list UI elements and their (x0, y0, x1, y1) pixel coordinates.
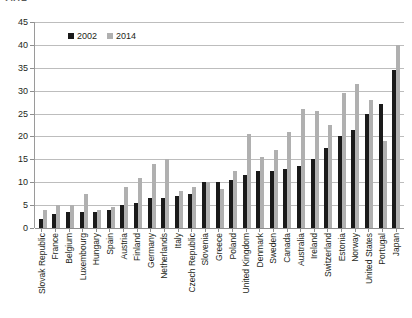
x-tick (335, 228, 349, 232)
x-tick (376, 228, 390, 232)
plot-area (34, 22, 404, 228)
bar-2014 (369, 100, 373, 228)
bar-2014 (124, 187, 128, 228)
x-tick-label: United Kingdom (242, 233, 251, 293)
x-tick-label: Hungary (92, 233, 101, 265)
x-tick-label-cell: Estonia (335, 233, 349, 318)
x-tick-label-cell: Greece (212, 233, 226, 318)
x-tick (212, 228, 226, 232)
x-tick (348, 228, 362, 232)
y-tick-label-30: 30 (4, 87, 28, 96)
x-tick-label-cell: Netherlands (158, 233, 172, 318)
y-tick-label-40: 40 (4, 41, 28, 50)
bar-group (254, 22, 268, 228)
cut-off-heading-fragment: 2014 (5, 0, 27, 1)
bar-2014 (152, 164, 156, 228)
y-tick-label-5: 5 (4, 201, 28, 210)
y-tick-label-20: 20 (4, 132, 28, 141)
x-tick (130, 228, 144, 232)
bar-2014 (192, 187, 196, 228)
x-tick (103, 228, 117, 232)
x-tick-label-cell: Slovak Republic (35, 233, 49, 318)
x-tick-label: France (51, 233, 60, 259)
x-tick-label: Austria (119, 233, 128, 259)
x-tick-label-cell: Poland (226, 233, 240, 318)
bar-group (36, 22, 50, 228)
bar-group (158, 22, 172, 228)
x-tick (239, 228, 253, 232)
x-tick (294, 228, 308, 232)
bar-group (90, 22, 104, 228)
x-tick-label-cell: Norway (348, 233, 362, 318)
x-tick-label: Ireland (310, 233, 319, 259)
x-tick-label: Germany (147, 233, 156, 268)
bar-group (77, 22, 91, 228)
x-tick-label-cell: Japan (389, 233, 403, 318)
x-tick (76, 228, 90, 232)
x-tick-label: Portugal (378, 233, 387, 265)
bar-group (335, 22, 349, 228)
bar-2014 (247, 134, 251, 228)
x-tick-label: Slovak Republic (38, 233, 47, 294)
x-tick (185, 228, 199, 232)
x-tick (267, 228, 281, 232)
bar-2014 (274, 150, 278, 228)
x-tick-label: Netherlands (160, 233, 169, 279)
x-tick-label-cell: France (49, 233, 63, 318)
bar-group (186, 22, 200, 228)
y-tick-label-0: 0 (4, 224, 28, 233)
x-tick-label: Greece (215, 233, 224, 261)
bar-group (267, 22, 281, 228)
x-tick (90, 228, 104, 232)
x-tick-label: Denmark (256, 233, 265, 267)
x-tick-label: Sweden (269, 233, 278, 264)
x-tick-label-cell: Spain (103, 233, 117, 318)
bar-group (294, 22, 308, 228)
y-tick-label-35: 35 (4, 64, 28, 73)
x-tick-label: Australia (296, 233, 305, 266)
bar-2014 (396, 45, 400, 228)
x-tick-label-cell: Switzerland (321, 233, 335, 318)
bar-2014 (138, 178, 142, 228)
bar-group (281, 22, 295, 228)
bar-2014 (43, 210, 47, 228)
x-tick-label: Spain (106, 233, 115, 255)
x-tick-label-cell: Hungary (90, 233, 104, 318)
x-tick-label-cell: Italy (171, 233, 185, 318)
x-tick-label: Czech Republic (187, 233, 196, 293)
x-tick (308, 228, 322, 232)
x-tick (35, 228, 49, 232)
x-tick-label: Belgium (65, 233, 74, 264)
x-tick (321, 228, 335, 232)
x-tick-label: Finland (133, 233, 142, 261)
x-axis-ticks (34, 228, 404, 232)
x-tick-label-cell: Denmark (253, 233, 267, 318)
bar-group (376, 22, 390, 228)
x-tick (226, 228, 240, 232)
bar-2014 (84, 194, 88, 228)
y-tick-label-10: 10 (4, 178, 28, 187)
bar-group (63, 22, 77, 228)
x-tick (144, 228, 158, 232)
x-tick-label-cell: United States (362, 233, 376, 318)
bar-group (389, 22, 403, 228)
x-tick-label-cell: Canada (280, 233, 294, 318)
bar-group (104, 22, 118, 228)
x-tick-label-cell: Ireland (308, 233, 322, 318)
x-tick (253, 228, 267, 232)
x-tick (171, 228, 185, 232)
bar-2014 (383, 141, 387, 228)
x-tick-label-cell: Luxembourg (76, 233, 90, 318)
bar-2014 (233, 171, 237, 228)
x-tick-label-cell: Belgium (62, 233, 76, 318)
bar-2014 (70, 205, 74, 228)
bar-group (226, 22, 240, 228)
y-tick-label-45: 45 (4, 18, 28, 27)
x-tick-label-cell: United Kingdom (239, 233, 253, 318)
x-tick (199, 228, 213, 232)
bar-group (199, 22, 213, 228)
x-tick (117, 228, 131, 232)
x-tick (49, 228, 63, 232)
bar-group (118, 22, 132, 228)
x-tick-label: Slovenia (201, 233, 210, 266)
